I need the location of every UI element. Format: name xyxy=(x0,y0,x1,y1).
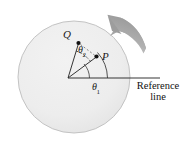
reference-line-label-line2: line xyxy=(129,91,187,102)
point-label-p: P xyxy=(102,51,109,63)
figure-canvas: Q P θ2 θ1 Referenceline xyxy=(0,0,191,141)
theta1-subscript: 1 xyxy=(96,88,100,96)
angle-label-theta1: θ1 xyxy=(92,82,100,95)
point-label-q: Q xyxy=(63,29,71,41)
point-p-dot xyxy=(94,54,98,58)
diagram-graphics xyxy=(0,0,191,141)
angle-label-theta2: θ2 xyxy=(78,45,86,58)
rotating-disk xyxy=(18,21,130,133)
reference-line-label-line1: Reference xyxy=(137,80,180,91)
theta2-subscript: 2 xyxy=(82,51,86,59)
reference-line-label: Referenceline xyxy=(129,80,187,102)
